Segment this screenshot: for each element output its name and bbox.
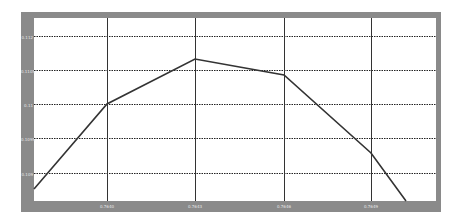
chart-svg (0, 0, 459, 222)
data-line (34, 59, 406, 201)
horizontal-gridlines (34, 37, 436, 174)
